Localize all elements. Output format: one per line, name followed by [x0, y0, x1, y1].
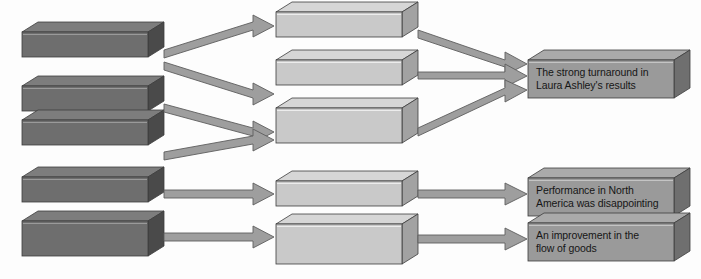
left-column-group — [22, 22, 164, 256]
arrow-left4-mid4 — [164, 183, 274, 205]
middle-box-3[interactable] — [276, 98, 418, 143]
arrow-left1-mid2 — [164, 62, 274, 105]
arrow-mid5-right3 — [418, 228, 527, 250]
right-box-1-label: The strong turnaround in Laura Ashley's … — [536, 66, 672, 92]
left-box-1[interactable] — [22, 22, 164, 57]
diagram-canvas: The strong turnaround in Laura Ashley's … — [0, 0, 701, 279]
stage-two-arrows — [418, 30, 527, 250]
right-box-2-label: Performance in North America was disappo… — [536, 184, 672, 210]
left-box-3[interactable] — [22, 110, 164, 145]
arrow-mid3-right1 — [418, 80, 527, 136]
left-box-2[interactable] — [22, 76, 164, 111]
stage-one-arrows — [164, 15, 274, 248]
middle-column-group — [276, 2, 418, 264]
right-box-3-label: An improvement in the flow of goods — [536, 229, 672, 255]
arrow-left5-mid5 — [164, 226, 274, 248]
arrow-left3-mid3 — [164, 129, 274, 160]
arrow-mid4-right2 — [418, 183, 527, 205]
middle-box-1[interactable] — [276, 2, 418, 37]
middle-box-2[interactable] — [276, 50, 418, 85]
left-box-5[interactable] — [22, 211, 164, 256]
middle-box-4[interactable] — [276, 171, 418, 206]
arrow-left1-mid1 — [164, 15, 274, 58]
middle-box-5[interactable] — [276, 214, 418, 264]
left-box-4[interactable] — [22, 167, 164, 202]
